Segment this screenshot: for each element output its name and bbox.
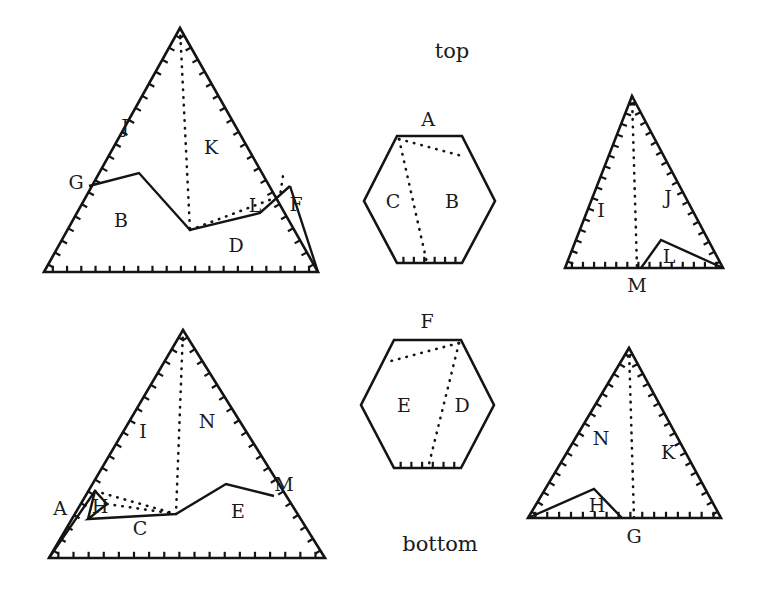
top-left-triangle-region-label-J: J bbox=[119, 115, 129, 137]
bottom-annotation-label: bottom bbox=[402, 532, 478, 556]
bottom-left-triangle-region-label-A: A bbox=[52, 497, 67, 519]
bottom-left-triangle-region-label-C: C bbox=[133, 517, 148, 539]
top-right-triangle-region-label-M: M bbox=[627, 274, 646, 296]
bottom-right-triangle-region-label-K: K bbox=[661, 441, 676, 463]
bottom-left-triangle-region-label-M: M bbox=[274, 473, 293, 495]
bottom-hexagon-region-label-E: E bbox=[397, 394, 411, 416]
top-annotation-label: top bbox=[435, 39, 470, 63]
bottom-left-triangle-region-label-H: H bbox=[92, 495, 109, 517]
top-hexagon-region-label-A: A bbox=[420, 108, 435, 130]
top-left-triangle-region-label-F: F bbox=[289, 193, 302, 215]
bottom-right-triangle-region-label-G: G bbox=[626, 525, 641, 547]
top-hexagon-region-label-C: C bbox=[386, 190, 401, 212]
bottom-left-triangle-region-label-I: I bbox=[139, 420, 147, 442]
bottom-hexagon-region-label-F: F bbox=[420, 310, 433, 332]
bottom-left-triangle-region-label-N: N bbox=[199, 410, 216, 432]
polygon-decomposition-figure: JKGBLFDACBIJLMINAHCEMFEDNKHG top bottom bbox=[0, 0, 761, 615]
top-hexagon-region-label-B: B bbox=[445, 190, 459, 212]
top-right-triangle-region-label-L: L bbox=[663, 245, 676, 267]
top-left-triangle-region-label-K: K bbox=[204, 136, 219, 158]
bottom-left-triangle-region-label-E: E bbox=[231, 500, 245, 522]
figure-root: JKGBLFDACBIJLMINAHCEMFEDNKHG top bottom bbox=[0, 0, 761, 615]
bottom-right-triangle-region-label-H: H bbox=[589, 494, 606, 516]
figure-background bbox=[0, 0, 761, 615]
bottom-hexagon-region-label-D: D bbox=[454, 394, 469, 416]
bottom-right-triangle-region-label-N: N bbox=[593, 427, 610, 449]
top-left-triangle-region-label-B: B bbox=[114, 209, 128, 231]
top-right-triangle-region-label-J: J bbox=[662, 186, 672, 208]
top-left-triangle-region-label-L: L bbox=[249, 194, 262, 216]
top-left-triangle-region-label-D: D bbox=[228, 234, 243, 256]
top-left-triangle-region-label-G: G bbox=[68, 171, 83, 193]
top-right-triangle-region-label-I: I bbox=[597, 199, 605, 221]
